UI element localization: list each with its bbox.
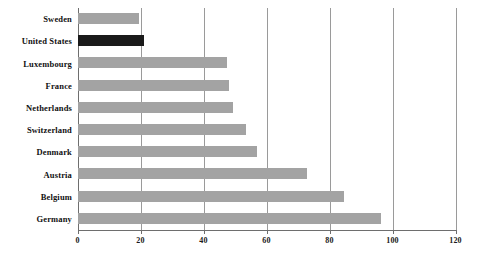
bar-row	[78, 119, 456, 141]
category-label-united-states: United States	[22, 36, 72, 46]
category-label-sweden: Sweden	[43, 14, 72, 24]
category-label-netherlands: Netherlands	[26, 103, 72, 113]
bar-belgium[interactable]	[78, 191, 344, 202]
tick-label-100: 100	[386, 236, 399, 245]
plot-area	[78, 8, 456, 230]
bar-denmark[interactable]	[78, 146, 258, 157]
tick-mark-60	[267, 230, 268, 234]
tick-mark-100	[393, 230, 394, 234]
tick-label-40: 40	[199, 236, 207, 245]
bar-switzerland[interactable]	[78, 124, 247, 135]
category-label-belgium: Belgium	[41, 192, 72, 202]
tick-mark-20	[141, 230, 142, 234]
gridline-120	[456, 8, 457, 230]
category-label-switzerland: Switzerland	[27, 125, 72, 135]
bar-row	[78, 141, 456, 163]
bar-row	[78, 186, 456, 208]
tick-mark-0	[78, 230, 79, 234]
category-label-france: France	[46, 81, 72, 91]
bar-row	[78, 75, 456, 97]
tick-mark-40	[204, 230, 205, 234]
bar-united-states[interactable]	[78, 35, 144, 46]
tick-label-60: 60	[262, 236, 270, 245]
tick-mark-120	[456, 230, 457, 234]
bar-chart: SwedenUnited StatesLuxembourgFranceNethe…	[0, 0, 483, 256]
tick-mark-80	[330, 230, 331, 234]
bar-row	[78, 52, 456, 74]
bar-row	[78, 97, 456, 119]
bar-row	[78, 208, 456, 230]
bar-germany[interactable]	[78, 213, 382, 224]
tick-label-20: 20	[136, 236, 144, 245]
bar-sweden[interactable]	[78, 13, 139, 24]
category-label-denmark: Denmark	[36, 147, 72, 157]
category-label-austria: Austria	[44, 170, 72, 180]
tick-label-120: 120	[449, 236, 462, 245]
tick-label-80: 80	[325, 236, 333, 245]
bar-row	[78, 8, 456, 30]
bar-austria[interactable]	[78, 168, 308, 179]
category-label-germany: Germany	[36, 214, 72, 224]
bar-luxembourg[interactable]	[78, 57, 228, 68]
bar-row	[78, 163, 456, 185]
bar-netherlands[interactable]	[78, 102, 234, 113]
bar-france[interactable]	[78, 80, 229, 91]
category-label-luxembourg: Luxembourg	[23, 59, 72, 69]
tick-label-0: 0	[75, 236, 79, 245]
bar-row	[78, 30, 456, 52]
